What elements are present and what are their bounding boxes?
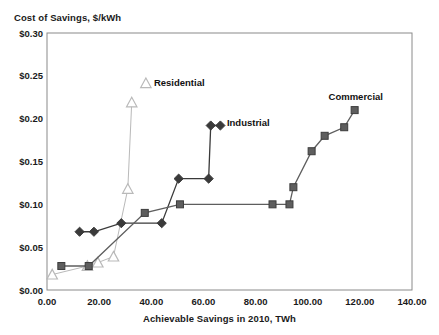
data-point-diamond: [157, 219, 166, 228]
x-tick-label: 120.00: [345, 296, 374, 307]
y-tick-label: $0.10: [19, 199, 43, 210]
data-point-triangle: [127, 97, 137, 107]
data-point-square: [58, 263, 65, 270]
data-point-square: [269, 201, 276, 208]
data-point-square: [321, 132, 328, 139]
series-label-residential: Residential: [154, 77, 205, 88]
series-label-layer: ResidentialIndustrialCommercial: [141, 77, 383, 127]
data-point-diamond: [174, 174, 183, 183]
data-point-square: [341, 124, 348, 131]
y-tick-label: $0.30: [19, 28, 43, 39]
chart-plot-svg: $0.00$0.05$0.10$0.15$0.20$0.25$0.30 0.00…: [0, 0, 439, 335]
chart-container: Cost of Savings, $/kWh $0.00$0.05$0.10$0…: [0, 0, 439, 335]
data-point-triangle: [108, 251, 118, 261]
x-tick-label: 80.00: [244, 296, 268, 307]
series-label-commercial: Commercial: [329, 91, 383, 102]
data-point-square: [308, 148, 315, 155]
series-label-industrial: Industrial: [227, 117, 270, 128]
series-industrial: [75, 121, 225, 236]
data-point-diamond: [117, 219, 126, 228]
y-tick-label: $0.15: [19, 156, 43, 167]
x-tick-label: 20.00: [87, 296, 111, 307]
y-tick-label: $0.00: [19, 285, 43, 296]
x-axis-title: Achievable Savings in 2010, TWh: [0, 313, 439, 324]
data-point-square: [176, 201, 183, 208]
data-point-diamond: [89, 227, 98, 236]
series-line: [80, 126, 221, 232]
x-tick-label: 140.00: [397, 296, 426, 307]
data-point-square: [286, 201, 293, 208]
x-tick-label: 60.00: [192, 296, 216, 307]
x-tick-label: 40.00: [139, 296, 163, 307]
series-line: [61, 110, 354, 266]
y-axis-tick-labels: $0.00$0.05$0.10$0.15$0.20$0.25$0.30: [19, 28, 43, 296]
data-point-diamond: [216, 121, 225, 130]
plot-area-border: [47, 33, 412, 290]
data-point-square: [141, 209, 148, 216]
data-point-triangle: [123, 184, 133, 194]
data-point-triangle: [93, 257, 103, 267]
y-tick-label: $0.25: [19, 70, 43, 81]
x-axis-tick-labels: 0.0020.0040.0060.0080.00100.00120.00140.…: [38, 296, 427, 307]
y-tick-label: $0.20: [19, 113, 43, 124]
y-tick-label: $0.05: [19, 242, 43, 253]
data-point-diamond: [204, 174, 213, 183]
data-point-diamond: [75, 227, 84, 236]
data-point-square: [85, 263, 92, 270]
plot-frame: [47, 33, 412, 290]
data-point-diamond: [206, 121, 215, 130]
x-tick-label: 0.00: [38, 296, 57, 307]
series-line: [52, 102, 132, 274]
series-commercial: [58, 107, 358, 270]
data-series-layer: [47, 97, 358, 279]
data-point-square: [351, 107, 358, 114]
data-point-square: [290, 184, 297, 191]
series-residential: [47, 97, 137, 279]
data-point-triangle: [141, 78, 151, 88]
x-tick-label: 100.00: [293, 296, 322, 307]
